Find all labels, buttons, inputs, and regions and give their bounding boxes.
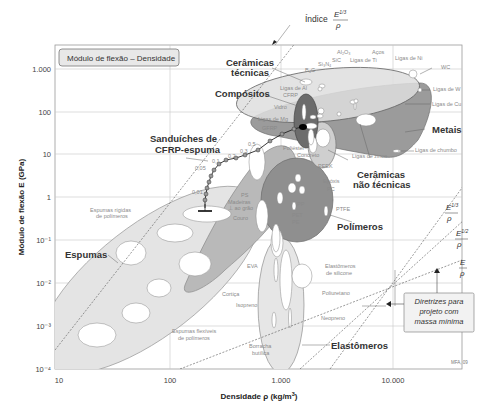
svg-text:projeto com: projeto com <box>418 307 458 316</box>
y-tick-0.0001: 10⁻⁴ <box>35 365 51 374</box>
y-axis-title: Módulo de flexão E (GPa) <box>17 158 26 255</box>
x-tick-10: 10 <box>55 376 63 385</box>
index-label: Índice E1/3 ρ <box>272 9 348 45</box>
svg-text:CFRP: CFRP <box>283 92 298 98</box>
materials-property-chart: Módulo de flexão – Densidade 1.000 100 1… <box>0 0 484 411</box>
svg-text:Índice: Índice <box>305 14 328 24</box>
y-tick-100: 100 <box>38 108 51 117</box>
svg-text:de polímeros: de polímeros <box>178 335 210 341</box>
label-sanduiches-1: Sanduíches de <box>150 133 217 144</box>
svg-text:ρ: ρ <box>456 240 462 249</box>
svg-text:Borracha: Borracha <box>249 343 272 349</box>
label-elastomeros: Elastômeros <box>331 340 388 351</box>
svg-text:massa mínima: massa mínima <box>415 317 464 326</box>
y-tick-1000: 1.000 <box>32 65 51 74</box>
svg-text:PEEK: PEEK <box>318 163 333 169</box>
label-ceramicas-nao-tecnicas-2: não técnicas <box>353 179 411 190</box>
svg-text:E: E <box>460 258 466 267</box>
svg-text:PE: PE <box>292 219 300 225</box>
svg-text:Epóxis: Epóxis <box>323 178 340 184</box>
svg-text:Poliuretano: Poliuretano <box>322 290 350 296</box>
svg-text:Ligas de Ni: Ligas de Ni <box>395 55 423 61</box>
svg-text:SiC: SiC <box>332 57 341 63</box>
svg-text:Espumas flexíveis: Espumas flexíveis <box>172 328 217 334</box>
svg-text:Vidro: Vidro <box>274 104 287 110</box>
svg-text:ρ: ρ <box>446 214 452 223</box>
svg-text:WC: WC <box>441 64 450 70</box>
svg-text:Ligas de W: Ligas de W <box>433 86 461 92</box>
svg-text:Cortiça: Cortiça <box>222 291 240 297</box>
svg-text:ρ: ρ <box>335 21 341 30</box>
label-sanduiches-2: CFRP-espuma <box>155 144 221 155</box>
svg-text:Ligas de Al: Ligas de Al <box>280 85 307 91</box>
svg-text:Concreto: Concreto <box>297 152 319 158</box>
chart-title: Módulo de flexão – Densidade <box>67 54 176 63</box>
svg-text:0,1: 0,1 <box>212 158 220 164</box>
svg-text:Ligas de Mg: Ligas de Mg <box>258 116 288 122</box>
label-compositos: Compósitos <box>215 88 270 99</box>
svg-text:E1/3: E1/3 <box>334 9 347 19</box>
label-espumas: Espumas <box>65 249 107 260</box>
svg-text:B₄C: B₄C <box>305 67 315 73</box>
svg-text:ρ: ρ <box>459 269 465 278</box>
svg-text:PC: PC <box>327 186 335 192</box>
family-polimeros-envelope <box>261 158 333 242</box>
svg-text:Ligas de Cu: Ligas de Cu <box>432 101 461 107</box>
svg-text:0,01: 0,01 <box>192 189 203 195</box>
svg-text:PET: PET <box>292 212 303 218</box>
x-axis: 10 100 1.000 10.000 Densidade ρ (kg/m3) <box>55 376 405 401</box>
svg-text:EVA: EVA <box>247 263 258 269</box>
svg-text:0,05: 0,05 <box>195 165 206 171</box>
svg-text:PTFE: PTFE <box>336 206 350 212</box>
svg-text:de silicone: de silicone <box>326 270 352 276</box>
y-tick-0.01: 10⁻² <box>36 279 51 288</box>
x-axis-title: Densidade ρ (kg/m3) <box>221 391 298 401</box>
svg-text:Elastômeros: Elastômeros <box>325 263 356 269</box>
label-ceramicas-tecnicas-2: técnicas <box>231 67 269 78</box>
svg-text:Al₂O₃: Al₂O₃ <box>337 49 351 55</box>
svg-text:butílica: butílica <box>252 350 270 356</box>
chart-title-box: Módulo de flexão – Densidade <box>59 49 179 66</box>
svg-text:Isopreno: Isopreno <box>236 302 257 308</box>
x-tick-10000: 10.000 <box>382 376 405 385</box>
x-tick-100: 100 <box>164 376 177 385</box>
svg-text:de polímeros: de polímeros <box>96 213 128 219</box>
y-tick-10: 10 <box>43 150 51 159</box>
svg-text:Poliéster: Poliéster <box>283 145 305 151</box>
y-tick-0.1: 10⁻¹ <box>36 236 51 245</box>
y-tick-0.001: 10⁻³ <box>36 322 51 331</box>
svg-text:⊥ ao grão: ⊥ ao grão <box>228 205 253 211</box>
svg-text:Aços: Aços <box>372 49 384 55</box>
y-axis: 1.000 100 10 1 10⁻¹ 10⁻² 10⁻³ 10⁻⁴ Módul… <box>17 65 51 374</box>
svg-text:Ligas de chumbo: Ligas de chumbo <box>415 147 457 153</box>
svg-text:Couro: Couro <box>233 215 248 221</box>
svg-text:0,5: 0,5 <box>248 141 256 147</box>
svg-text:Ligas de Ti: Ligas de Ti <box>350 57 377 63</box>
x-tick-1000: 1.000 <box>272 376 291 385</box>
svg-text:Neopreno: Neopreno <box>321 315 345 321</box>
credit-mfa: MFA, 09 <box>451 360 468 365</box>
svg-text:0,3: 0,3 <box>240 148 248 154</box>
svg-text:PP: PP <box>297 201 305 207</box>
label-metais: Metais <box>432 124 462 135</box>
y-tick-1: 1 <box>47 193 51 202</box>
svg-text:Si₃N₄: Si₃N₄ <box>318 61 332 67</box>
svg-text:GFRP: GFRP <box>262 125 278 131</box>
label-polimeros: Polímeros <box>337 221 383 232</box>
svg-text:PS: PS <box>241 192 249 198</box>
svg-text:Ligas de zinco: Ligas de zinco <box>352 153 387 159</box>
svg-text:0,2: 0,2 <box>228 153 236 159</box>
svg-text:Diretrizes para: Diretrizes para <box>415 297 464 306</box>
